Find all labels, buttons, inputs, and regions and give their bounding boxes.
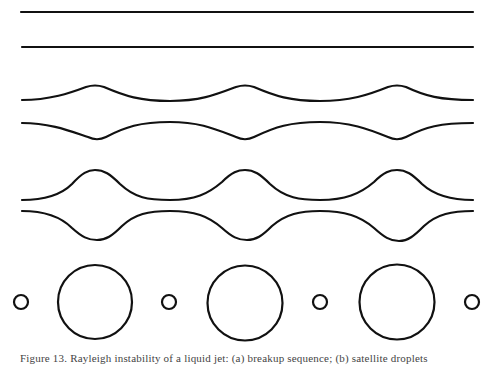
main-droplet	[360, 265, 435, 340]
main-droplet	[58, 265, 132, 339]
satellite-droplet	[465, 295, 479, 309]
main-droplet	[208, 266, 283, 341]
droplets-panel	[14, 265, 479, 341]
straight-jet-panel	[21, 12, 473, 47]
weak-perturbation-panel	[22, 86, 473, 140]
upper-wavy-boundary	[22, 170, 473, 200]
satellite-droplet	[162, 295, 176, 309]
strong-perturbation-panel	[22, 170, 473, 241]
figure-caption: Figure 13. Rayleigh instability of a liq…	[20, 351, 490, 365]
upper-wavy-boundary	[22, 86, 473, 102]
satellite-droplet	[313, 295, 327, 309]
lower-wavy-boundary	[22, 211, 473, 241]
lower-wavy-boundary	[22, 122, 473, 139]
satellite-droplet	[14, 295, 28, 309]
